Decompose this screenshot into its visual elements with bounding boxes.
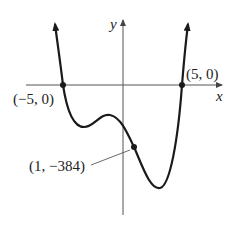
point-5-0 (179, 82, 185, 88)
point-neg5-0 (60, 82, 66, 88)
y-axis-label: y (108, 16, 117, 32)
polynomial-graph: y x (−5, 0) (5, 0) (1, −384) (0, 0, 237, 225)
label-5-0: (5, 0) (186, 66, 219, 83)
x-axis-label: x (215, 88, 223, 104)
leader-line (91, 150, 130, 165)
polynomial-curve (55, 24, 63, 85)
label-neg5-0: (−5, 0) (13, 91, 54, 108)
point-1-neg384 (131, 144, 137, 150)
label-1-neg384: (1, −384) (29, 158, 85, 175)
